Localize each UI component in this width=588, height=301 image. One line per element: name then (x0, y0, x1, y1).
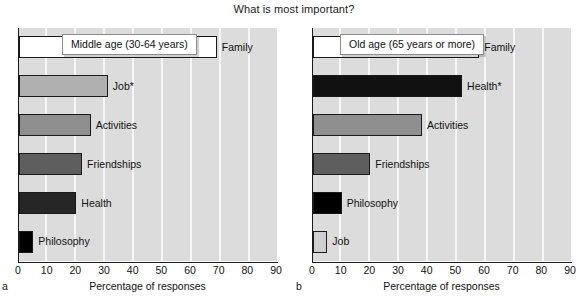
bar-activities (19, 114, 91, 136)
x-tick-0: 0 (15, 264, 21, 276)
panel-caption-a: Middle age (30-64 years) (62, 34, 197, 55)
bar-row: Health (19, 192, 112, 214)
figure-bar-chart: What is most important? Middle age (30-6… (0, 0, 588, 301)
bar-philosophy (313, 192, 342, 214)
bar-friendships (19, 153, 82, 175)
bar-health (19, 192, 76, 214)
x-tick-40: 40 (421, 264, 433, 276)
x-tick-30: 30 (98, 264, 110, 276)
x-tick-20: 20 (363, 264, 375, 276)
panel-caption-b: Old age (65 years or more) (340, 34, 484, 55)
bar-row: Friendships (19, 153, 141, 175)
x-tick-70: 70 (507, 264, 519, 276)
bar-row: Job (313, 231, 349, 253)
x-tick-0: 0 (309, 264, 315, 276)
bar-row: Activities (19, 114, 137, 136)
x-tick-20: 20 (69, 264, 81, 276)
x-axis-line-b (312, 262, 572, 263)
bar-row: Activities (313, 114, 468, 136)
bar-label: Health (81, 198, 111, 209)
panel-letter-a: a (2, 280, 8, 292)
x-tick-80: 80 (241, 264, 253, 276)
x-tick-90: 90 (564, 264, 576, 276)
bar-label: Philosophy (347, 198, 398, 209)
bar-label: Philosophy (38, 236, 89, 247)
x-tick-50: 50 (449, 264, 461, 276)
x-tick-80: 80 (535, 264, 547, 276)
bar-activities (313, 114, 422, 136)
panel-letter-b: b (296, 280, 302, 292)
x-axis-label-a: Percentage of responses (18, 280, 277, 292)
x-tick-60: 60 (184, 264, 196, 276)
x-tick-labels-b: 0102030405060708090 (312, 264, 571, 278)
bar-label: Friendships (87, 159, 141, 170)
bar-job (313, 231, 327, 253)
bar-row: Health* (313, 75, 502, 97)
x-tick-10: 10 (335, 264, 347, 276)
x-tick-90: 90 (270, 264, 282, 276)
x-tick-50: 50 (155, 264, 167, 276)
panel-b: Old age (65 years or more) FamilyHealth*… (294, 24, 588, 301)
bar-label: Activities (427, 120, 468, 131)
panel-a: Middle age (30-64 years) FamilyJob*Activ… (0, 24, 294, 301)
bar-row: Job* (19, 75, 134, 97)
bar-health (313, 75, 462, 97)
bar-philosophy (19, 231, 33, 253)
bar-row: Philosophy (19, 231, 90, 253)
bar-label: Family (222, 42, 253, 53)
x-axis-label-b: Percentage of responses (312, 280, 571, 292)
x-tick-70: 70 (213, 264, 225, 276)
bar-label: Friendships (375, 159, 429, 170)
bar-label: Job (332, 236, 349, 247)
bar-friendships (313, 153, 370, 175)
figure-title: What is most important? (0, 3, 588, 15)
bar-job (19, 75, 108, 97)
bar-row: Philosophy (313, 192, 398, 214)
bar-row: Friendships (313, 153, 430, 175)
bar-group-a: FamilyJob*ActivitiesFriendshipsHealthPhi… (19, 28, 277, 261)
x-tick-10: 10 (41, 264, 53, 276)
x-axis-line-a (18, 262, 278, 263)
bar-label: Health* (467, 81, 501, 92)
bar-label: Job* (113, 81, 134, 92)
x-tick-labels-a: 0102030405060708090 (18, 264, 277, 278)
bar-label: Family (484, 42, 515, 53)
x-tick-30: 30 (392, 264, 404, 276)
bar-label: Activities (96, 120, 137, 131)
bar-group-b: FamilyHealth*ActivitiesFriendshipsPhilos… (313, 28, 571, 261)
x-tick-40: 40 (127, 264, 139, 276)
x-tick-60: 60 (478, 264, 490, 276)
